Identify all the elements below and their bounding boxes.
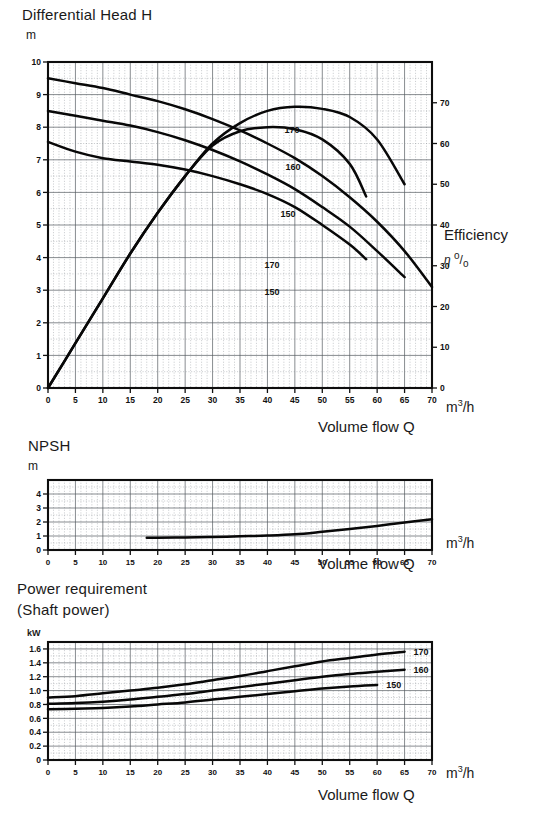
svg-text:40: 40	[263, 395, 273, 405]
svg-text:35: 35	[235, 395, 245, 405]
svg-text:60: 60	[373, 768, 382, 777]
npsh-chart-title: NPSH	[28, 437, 70, 454]
svg-text:0.8: 0.8	[29, 700, 41, 710]
svg-text:15: 15	[126, 395, 136, 405]
svg-text:0: 0	[36, 545, 41, 555]
svg-text:45: 45	[290, 558, 299, 567]
head-x-caption: Volume flow Q	[318, 418, 415, 435]
svg-text:2: 2	[36, 517, 41, 527]
svg-text:150: 150	[264, 287, 279, 297]
svg-text:40: 40	[263, 558, 272, 567]
svg-text:25: 25	[181, 558, 190, 567]
power-x-caption: Volume flow Q	[318, 786, 415, 803]
svg-text:35: 35	[236, 768, 245, 777]
svg-text:70: 70	[428, 768, 437, 777]
svg-text:45: 45	[290, 768, 299, 777]
svg-text:20: 20	[153, 558, 162, 567]
svg-text:160: 160	[285, 162, 300, 172]
head-chart-title: Differential Head H	[22, 6, 152, 23]
svg-text:1.0: 1.0	[29, 686, 41, 696]
svg-text:65: 65	[400, 395, 410, 405]
svg-text:45: 45	[290, 395, 300, 405]
svg-text:150: 150	[386, 680, 401, 690]
svg-text:4: 4	[36, 253, 41, 263]
svg-text:20: 20	[440, 302, 450, 312]
svg-text:5: 5	[73, 395, 78, 405]
svg-text:0: 0	[46, 395, 51, 405]
svg-text:25: 25	[180, 395, 190, 405]
svg-text:3: 3	[36, 285, 41, 295]
svg-text:170: 170	[264, 260, 279, 270]
svg-text:160: 160	[414, 665, 429, 675]
svg-text:2: 2	[36, 318, 41, 328]
svg-text:20: 20	[153, 395, 163, 405]
svg-text:170: 170	[284, 125, 299, 135]
svg-text:0: 0	[440, 383, 445, 393]
efficiency-axis-title: Efficiency	[444, 226, 508, 243]
npsh-chart: 432100510152025303540455055606570	[0, 472, 539, 572]
svg-text:5: 5	[73, 768, 78, 777]
svg-text:35: 35	[236, 558, 245, 567]
svg-text:0: 0	[36, 383, 41, 393]
svg-text:15: 15	[126, 558, 135, 567]
svg-text:0: 0	[36, 755, 41, 765]
svg-text:4: 4	[36, 489, 41, 499]
efficiency-axis-unit: η o/o	[444, 250, 468, 269]
svg-text:8: 8	[36, 122, 41, 132]
svg-text:1: 1	[36, 351, 41, 361]
npsh-x-unit: m3/h	[446, 534, 474, 551]
svg-text:25: 25	[181, 768, 190, 777]
power-chart-title-line2: (Shaft power)	[17, 601, 110, 618]
svg-text:0: 0	[46, 768, 51, 777]
svg-text:3: 3	[36, 503, 41, 513]
svg-text:70: 70	[428, 558, 437, 567]
svg-text:70: 70	[427, 395, 437, 405]
svg-text:60: 60	[440, 139, 450, 149]
svg-text:40: 40	[263, 768, 272, 777]
svg-text:50: 50	[440, 179, 450, 189]
svg-text:70: 70	[440, 98, 450, 108]
svg-text:65: 65	[400, 768, 409, 777]
svg-text:15: 15	[126, 768, 135, 777]
svg-text:10: 10	[440, 342, 450, 352]
svg-text:7: 7	[36, 155, 41, 165]
svg-text:10: 10	[32, 57, 42, 67]
svg-text:1.6: 1.6	[29, 644, 41, 654]
svg-text:30: 30	[208, 768, 217, 777]
svg-text:50: 50	[318, 768, 327, 777]
svg-text:0.4: 0.4	[29, 727, 41, 737]
svg-text:0.2: 0.2	[29, 741, 41, 751]
svg-text:0: 0	[46, 558, 51, 567]
svg-text:1.2: 1.2	[29, 672, 41, 682]
svg-text:10: 10	[98, 768, 107, 777]
svg-text:5: 5	[73, 558, 78, 567]
svg-text:9: 9	[36, 90, 41, 100]
svg-text:60: 60	[372, 395, 382, 405]
svg-text:1: 1	[36, 531, 41, 541]
svg-text:10: 10	[98, 395, 108, 405]
svg-text:55: 55	[345, 768, 354, 777]
svg-text:150: 150	[280, 209, 295, 219]
svg-text:50: 50	[318, 395, 328, 405]
head-x-unit: m3/h	[446, 398, 474, 415]
svg-text:20: 20	[153, 768, 162, 777]
svg-text:5: 5	[36, 220, 41, 230]
pump-performance-sheet: Differential Head H m 109876543210051015…	[0, 0, 539, 818]
svg-text:55: 55	[345, 395, 355, 405]
svg-text:0.6: 0.6	[29, 714, 41, 724]
svg-text:1.4: 1.4	[29, 658, 41, 668]
npsh-x-caption: Volume flow Q	[318, 555, 415, 572]
power-x-unit: m3/h	[446, 764, 474, 781]
svg-text:6: 6	[36, 188, 41, 198]
power-chart-title-line1: Power requirement	[17, 580, 147, 597]
npsh-y-unit: m	[28, 459, 38, 473]
svg-text:170: 170	[414, 647, 429, 657]
svg-text:30: 30	[208, 558, 217, 567]
svg-text:30: 30	[208, 395, 218, 405]
svg-text:10: 10	[98, 558, 107, 567]
